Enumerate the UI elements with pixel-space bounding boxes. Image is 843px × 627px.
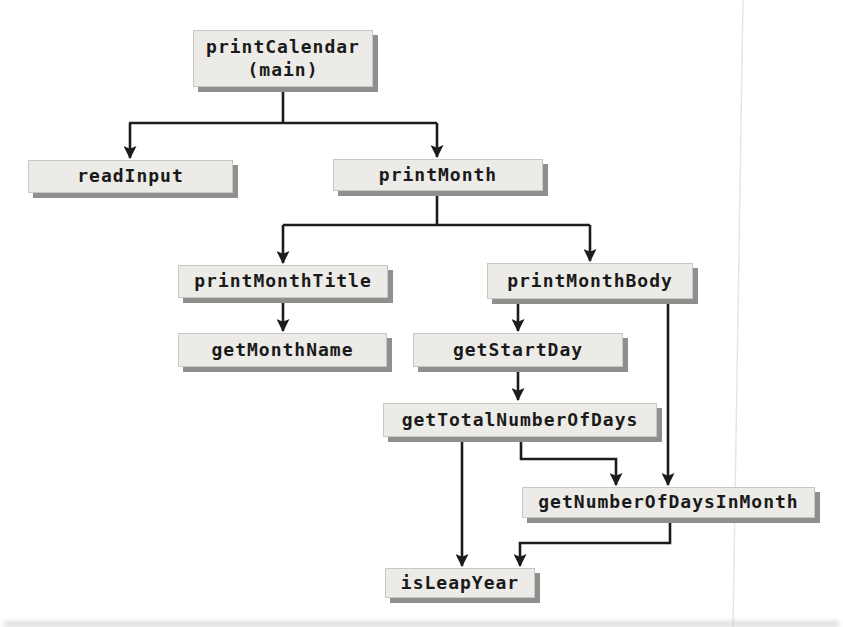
node-label: printMonthTitle <box>194 270 372 293</box>
node-sublabel: (main) <box>247 59 318 82</box>
structure-chart-canvas: printCalendar (main) readInput printMont… <box>0 0 843 627</box>
node-readinput: readInput <box>28 160 233 193</box>
edge-rail-printcalendar-children <box>129 87 437 123</box>
node-label: getNumberOfDaysInMonth <box>538 491 798 514</box>
node-label: readInput <box>77 165 184 188</box>
edge-gettotalnumberofdays-getnumberofdaysinmonth <box>521 437 616 485</box>
node-gettotalnumberofdays: getTotalNumberOfDays <box>383 403 657 437</box>
node-label: printMonthBody <box>507 270 673 293</box>
node-getnumberofdaysinmonth: getNumberOfDaysInMonth <box>522 487 815 518</box>
node-label: getTotalNumberOfDays <box>402 409 639 432</box>
scan-artifact-bottom-band <box>4 621 839 627</box>
node-printmonth: printMonth <box>333 159 543 191</box>
node-label: printMonth <box>379 164 497 187</box>
node-isleapyear: isLeapYear <box>385 568 535 598</box>
node-getmonthname: getMonthName <box>178 333 387 367</box>
node-printmonthtitle: printMonthTitle <box>178 265 388 298</box>
connector-layer <box>0 0 843 627</box>
node-label: printCalendar <box>206 36 360 59</box>
node-label: isLeapYear <box>401 572 519 595</box>
node-printmonthbody: printMonthBody <box>487 263 693 299</box>
node-label: getStartDay <box>453 339 583 362</box>
edge-getnumberofdaysinmonth-isleapyear <box>520 518 670 566</box>
node-label: getMonthName <box>211 339 353 362</box>
edge-rail-printmonth-children <box>283 191 590 225</box>
scan-artifact-line <box>733 0 743 627</box>
node-getstartday: getStartDay <box>413 333 623 367</box>
node-printcalendar-main: printCalendar (main) <box>193 30 373 87</box>
